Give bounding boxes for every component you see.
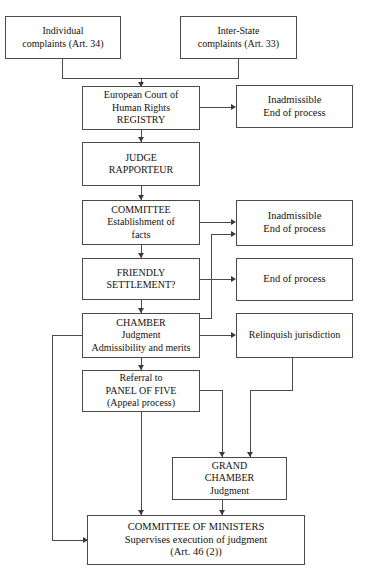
node-registry[interactable]: European Court of Human Rights REGISTRY [82, 86, 200, 130]
node-panel-of-five[interactable]: Referral to PANEL OF FIVE (Appeal proces… [82, 370, 200, 412]
node-individual-complaints[interactable]: Individual complaints (Art. 34) [5, 16, 121, 59]
connector-chamber-riser [211, 234, 212, 318]
connector-panel-right [200, 390, 223, 391]
node-relinquish-jurisdiction-label: Relinquish jurisdiction [237, 329, 352, 341]
node-inter-state-complaints[interactable]: Inter-State complaints (Art. 33) [180, 16, 297, 59]
connector-panel-to-grand [222, 390, 223, 457]
connector-chamber-left-down [52, 335, 53, 540]
connector-individual-down [62, 58, 63, 79]
node-chamber-label: CHAMBER Judgment Admissibility and merit… [83, 317, 199, 354]
connector-chamber-to-riser [200, 318, 212, 319]
node-inadmissible-committee[interactable]: Inadmissible End of process [236, 200, 353, 246]
node-committee-label: COMMITTEE Establishment of facts [83, 204, 199, 241]
flowchart-canvas: Individual complaints (Art. 34) Inter-St… [0, 0, 369, 577]
node-committee-of-ministers-label: COMMITTEE OF MINISTERS Supervises execut… [88, 521, 304, 559]
node-inter-state-complaints-label: Inter-State complaints (Art. 33) [181, 25, 296, 50]
connector-registry-to-inadmissible [200, 107, 234, 108]
node-registry-label: European Court of Human Rights REGISTRY [83, 89, 199, 126]
node-friendly-settlement[interactable]: FRIENDLY SETTLEMENT? [82, 258, 200, 300]
node-inadmissible-committee-label: Inadmissible End of process [237, 210, 352, 236]
node-individual-complaints-label: Individual complaints (Art. 34) [6, 25, 120, 50]
node-committee[interactable]: COMMITTEE Establishment of facts [82, 200, 200, 245]
node-end-of-process[interactable]: End of process [236, 258, 353, 301]
connector-interstate-down [238, 58, 239, 79]
node-inadmissible-registry-label: Inadmissible End of process [237, 94, 352, 120]
node-friendly-settlement-label: FRIENDLY SETTLEMENT? [83, 267, 199, 292]
node-relinquish-jurisdiction[interactable]: Relinquish jurisdiction [236, 313, 353, 358]
node-end-of-process-label: End of process [237, 273, 352, 286]
node-committee-of-ministers[interactable]: COMMITTEE OF MINISTERS Supervises execut… [87, 515, 305, 565]
connector-friendly-to-end [200, 279, 234, 280]
connector-join-bar [62, 78, 239, 79]
node-grand-chamber[interactable]: GRAND CHAMBER Judgment [172, 457, 287, 500]
connector-relinquish-down [292, 358, 293, 391]
node-inadmissible-registry[interactable]: Inadmissible End of process [236, 85, 353, 128]
connector-relinquish-left [250, 390, 293, 391]
connector-panel-to-ministers [141, 412, 142, 515]
node-grand-chamber-label: GRAND CHAMBER Judgment [173, 460, 286, 497]
connector-chamber-to-relinquish [200, 335, 234, 336]
node-judge-rapporteur[interactable]: JUDGE RAPPORTEUR [82, 142, 200, 186]
connector-committee-to-inadmissible [200, 222, 234, 223]
node-panel-of-five-label: Referral to PANEL OF FIVE (Appeal proces… [83, 372, 199, 409]
node-chamber[interactable]: CHAMBER Judgment Admissibility and merit… [82, 313, 200, 358]
connector-relinquish-to-grand [250, 390, 251, 457]
node-judge-rapporteur-label: JUDGE RAPPORTEUR [83, 152, 199, 177]
connector-chamber-to-ministers [52, 540, 87, 541]
connector-chamber-left [52, 335, 82, 336]
